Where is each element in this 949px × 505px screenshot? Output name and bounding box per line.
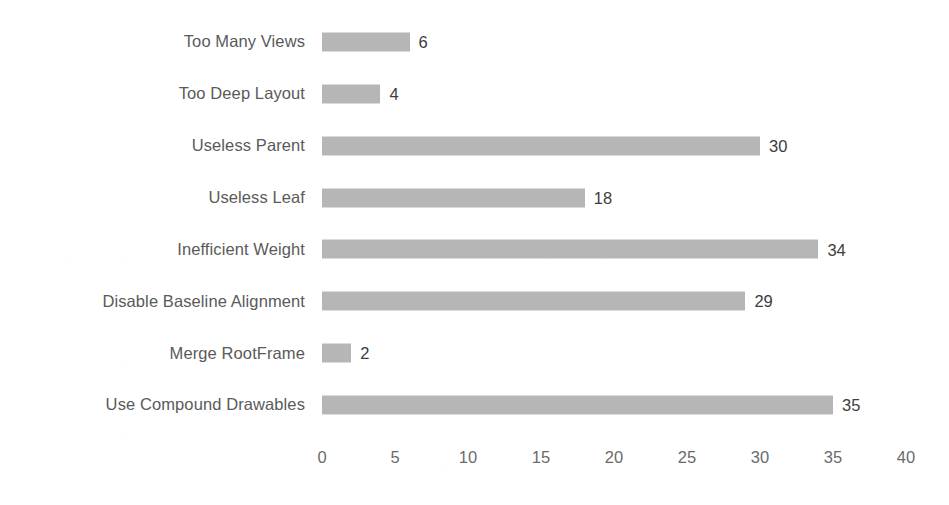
chart-row: Useless Parent30 [0, 120, 949, 172]
chart-row: Disable Baseline Alignment29 [0, 275, 949, 327]
x-axis-tick-label: 5 [390, 448, 399, 467]
x-axis-tick-label: 10 [459, 448, 477, 467]
bar-group: 30 [322, 136, 787, 155]
bar-value-label: 34 [827, 241, 845, 258]
category-label: Inefficient Weight [0, 240, 305, 259]
bar-value-label: 29 [754, 293, 772, 310]
x-axis-tick-label: 0 [317, 448, 326, 467]
bar-value-label: 2 [360, 345, 369, 362]
bar-value-label: 18 [594, 189, 612, 206]
chart-row: Useless Leaf18 [0, 172, 949, 224]
bar-group: 34 [322, 240, 846, 259]
chart-row: Merge RootFrame2 [0, 327, 949, 379]
bar-group: 4 [322, 84, 399, 103]
x-axis-tick-label: 15 [532, 448, 550, 467]
bar-group: 18 [322, 188, 612, 207]
x-axis-tick-label: 35 [824, 448, 842, 467]
bar [322, 240, 818, 259]
bar-value-label: 30 [769, 137, 787, 154]
category-label: Too Many Views [0, 32, 305, 51]
chart-row: Too Deep Layout4 [0, 68, 949, 120]
x-axis-tick-label: 40 [897, 448, 915, 467]
bar-group: 29 [322, 292, 773, 311]
chart-row: Inefficient Weight34 [0, 223, 949, 275]
category-label: Useless Leaf [0, 188, 305, 207]
bar [322, 292, 745, 311]
chart-plot-area: Too Many Views6Too Deep Layout4Useless P… [0, 0, 949, 440]
chart-row: Too Many Views6 [0, 16, 949, 68]
bar-value-label: 35 [842, 397, 860, 414]
bar [322, 136, 760, 155]
bar [322, 32, 410, 51]
category-label: Use Compound Drawables [0, 395, 305, 414]
bar-group: 35 [322, 395, 860, 414]
x-axis-tick-label: 20 [605, 448, 623, 467]
category-label: Too Deep Layout [0, 84, 305, 103]
bar-value-label: 6 [419, 34, 428, 51]
category-label: Useless Parent [0, 136, 305, 155]
bar-value-label: 4 [389, 86, 398, 103]
x-axis-tick-label: 25 [678, 448, 696, 467]
x-axis: 0510152025303540 [0, 448, 949, 478]
bar-group: 2 [322, 344, 369, 363]
category-label: Disable Baseline Alignment [0, 292, 305, 311]
chart-row: Use Compound Drawables35 [0, 379, 949, 431]
bar-group: 6 [322, 32, 428, 51]
category-label: Merge RootFrame [0, 344, 305, 363]
bar [322, 188, 585, 207]
bar-chart: Too Many Views6Too Deep Layout4Useless P… [0, 0, 949, 505]
bar [322, 84, 380, 103]
x-axis-tick-label: 30 [751, 448, 769, 467]
bar [322, 344, 351, 363]
bar [322, 395, 833, 414]
